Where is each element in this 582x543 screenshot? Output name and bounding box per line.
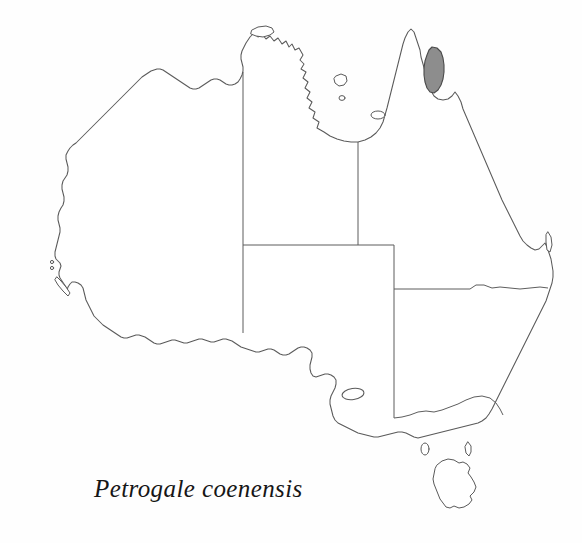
king-island — [421, 443, 429, 455]
dorre-island — [50, 266, 53, 269]
tasmania — [433, 459, 476, 508]
fraser-island — [546, 232, 552, 252]
bernier-island — [50, 260, 53, 263]
melville-island — [251, 26, 274, 37]
groote-eylandt — [334, 74, 347, 86]
flinders-island — [465, 442, 471, 456]
mornington-island — [371, 111, 385, 119]
australia-map — [0, 0, 582, 543]
species-caption: Petrogale coenensis — [94, 474, 303, 504]
sir-edward-pellew-island — [339, 96, 345, 101]
australia-mainland-coastline — [55, 29, 553, 438]
distribution-range-shading — [424, 47, 444, 93]
distribution-map-figure: Petrogale coenensis — [0, 0, 582, 543]
